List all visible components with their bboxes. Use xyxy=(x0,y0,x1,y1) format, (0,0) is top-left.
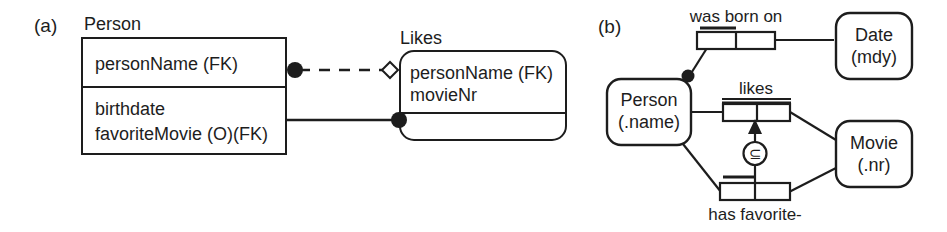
orm-fact-was-born-on: was born on xyxy=(689,7,783,49)
person-row-birthdate: birthdate xyxy=(95,99,165,119)
subset-constraint-glyph: ⊆ xyxy=(749,145,762,162)
orm-entity-movie-box xyxy=(836,121,912,187)
figure-container: (a) Person personName (FK) birthdate fav… xyxy=(0,0,947,232)
panel-a: (a) Person personName (FK) birthdate fav… xyxy=(34,14,566,154)
person-table-title: Person xyxy=(84,14,141,34)
line-likes-to-movie xyxy=(790,112,836,140)
likes-row-personname: personName (FK) xyxy=(410,63,553,83)
line-hasfavorite-to-movie xyxy=(789,168,836,192)
connector-filled-circle-marker xyxy=(287,62,303,78)
orm-fact-likes-label: likes xyxy=(739,79,773,98)
orm-entity-movie-ref: (.nr) xyxy=(858,155,891,175)
orm-entity-date: Date (mdy) xyxy=(836,13,912,79)
connector-person-likes-optional xyxy=(287,62,398,78)
connector-filled-circle-marker-2 xyxy=(391,112,407,128)
orm-fact-has-favorite: has favorite- xyxy=(708,177,802,224)
orm-entity-movie-name: Movie xyxy=(850,133,898,153)
orm-entity-date-box xyxy=(836,13,912,79)
line-person-to-wasbornon xyxy=(690,48,707,75)
panel-a-label: (a) xyxy=(34,15,57,36)
likes-table-title: Likes xyxy=(400,28,442,48)
person-row-personname: personName (FK) xyxy=(95,54,238,74)
orm-entity-movie: Movie (.nr) xyxy=(836,121,912,187)
person-row-favoritemovie: favoriteMovie (O)(FK) xyxy=(95,124,268,144)
orm-entity-person-ref: (.name) xyxy=(618,112,680,132)
line-person-to-hasfavorite xyxy=(683,144,721,192)
panel-b: (b) Person (.name) xyxy=(598,7,912,224)
connector-person-likes-mandatory xyxy=(286,112,407,128)
connector-open-diamond-marker xyxy=(382,62,398,78)
subset-constraint: ⊆ xyxy=(744,119,767,183)
orm-entity-person-name: Person xyxy=(620,90,677,110)
figure-canvas: (a) Person personName (FK) birthdate fav… xyxy=(0,0,947,232)
orm-entity-person: Person (.name) xyxy=(607,79,691,145)
likes-row-movienr: movieNr xyxy=(410,85,477,105)
orm-entity-date-ref: (mdy) xyxy=(851,47,897,67)
orm-fact-has-favorite-label: has favorite- xyxy=(708,205,802,224)
orm-entity-date-name: Date xyxy=(855,25,893,45)
orm-fact-was-born-on-label: was born on xyxy=(689,7,783,26)
panel-b-label: (b) xyxy=(598,16,621,37)
orm-fact-likes: likes xyxy=(722,79,791,121)
mandatory-role-dot-icon xyxy=(682,70,695,83)
